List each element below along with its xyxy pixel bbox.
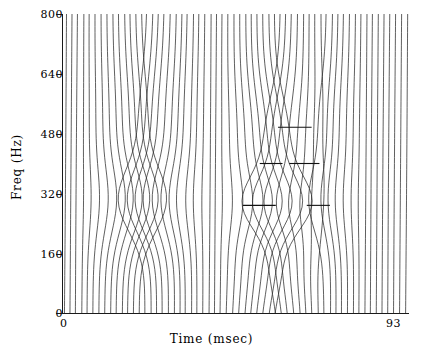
trace-line: [233, 14, 243, 313]
trace-line: [143, 14, 164, 313]
trace-line: [202, 14, 205, 313]
trace-line: [122, 14, 142, 313]
frequency-trajectory-plot: 800 640 480 320 160 0 0 93 Time (msec) F…: [0, 0, 423, 347]
trace-line: [365, 14, 367, 313]
trace-line: [64, 14, 66, 313]
trace-line: [400, 14, 402, 313]
trace-line: [388, 14, 390, 313]
trace-line: [135, 14, 158, 313]
trace-line: [343, 14, 349, 313]
annotation-markers-group: [243, 127, 330, 205]
trace-line: [214, 14, 216, 313]
trace-line: [406, 14, 408, 313]
trace-line: [370, 14, 372, 313]
trace-line: [87, 14, 91, 313]
trace-line: [82, 14, 84, 313]
trace-line: [239, 14, 253, 313]
trace-line: [209, 14, 211, 313]
trace-line: [128, 14, 150, 313]
trace-line: [75, 14, 77, 313]
trace-line: [193, 14, 199, 313]
trace-line: [351, 14, 355, 313]
trace-line: [394, 14, 396, 313]
trajectory-curves: [0, 0, 423, 347]
trace-line: [176, 14, 187, 313]
trace-line: [70, 14, 72, 313]
traces-group: [64, 14, 407, 313]
trace-line: [186, 14, 194, 313]
trace-line: [220, 14, 222, 313]
trace-line: [226, 14, 232, 313]
trace-line: [99, 14, 108, 313]
trace-line: [376, 14, 378, 313]
trace-line: [358, 14, 361, 313]
trace-line: [127, 14, 153, 313]
trace-line: [105, 14, 117, 313]
trace-line: [93, 14, 100, 313]
trace-line: [382, 14, 384, 313]
